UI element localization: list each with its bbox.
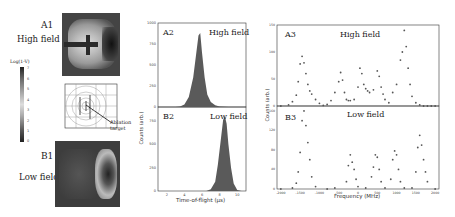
svg-text:250: 250 [149,84,156,88]
svg-text:160: 160 [269,109,275,113]
tof-xlabel: Time-of-flight (μs) [176,197,225,203]
svg-text:0: 0 [154,189,156,193]
svg-text:500: 500 [149,142,156,146]
b2-title: Low field [210,112,247,121]
svg-text:0: 0 [273,187,275,191]
colorbar-ticks: 7 6 5 4 3 2 1 0 [27,66,35,143]
svg-text:1000: 1000 [393,191,401,195]
svg-text:0: 0 [154,105,156,109]
svg-text:2000: 2000 [431,191,439,195]
a2-title: High field [209,28,249,37]
svg-text:750: 750 [149,119,156,123]
svg-text:1000: 1000 [147,21,156,25]
svg-text:120: 120 [269,128,275,132]
svg-text:-1000: -1000 [315,191,324,195]
svg-text:0: 0 [273,104,275,108]
svg-text:40: 40 [271,167,275,171]
svg-text:80: 80 [271,148,275,152]
svg-text:1500: 1500 [412,191,420,195]
svg-text:750: 750 [149,42,156,46]
panel-b1-label: B1 [41,151,53,161]
svg-text:50: 50 [271,77,275,81]
ablation-target-annotation: Ablation target [110,119,136,131]
panel-a1-subtitle: High field [17,34,60,44]
panel-b1-subtitle: Low field [19,172,59,182]
b3-title: Low field [347,110,384,119]
a2-panel-label: A2 [163,28,174,37]
svg-text:Counts (arb.): Counts (arb.) [264,89,270,122]
simulation-low-field [55,141,120,207]
svg-text:-1500: -1500 [296,191,305,195]
b3-panel-label: B3 [285,113,296,122]
svg-text:100: 100 [269,50,275,54]
a3-title: High field [340,30,380,39]
svg-text:150: 150 [269,23,275,27]
panel-a1-label: A1 [41,20,53,30]
svg-text:250: 250 [149,166,156,170]
svg-text:10: 10 [235,193,239,197]
freq-xlabel: Frequency (MHz) [334,193,380,199]
colorbar-label: Log(1-V) [10,59,29,64]
svg-text:2: 2 [166,193,168,197]
a3-panel-label: A3 [285,30,296,39]
svg-text:500: 500 [149,63,156,67]
simulation-high-field [62,13,120,76]
svg-text:-2000: -2000 [276,191,285,195]
b2-panel-label: B2 [163,112,174,121]
colorbar [20,67,24,142]
svg-text:Counts (arb.): Counts (arb.) [138,112,144,145]
